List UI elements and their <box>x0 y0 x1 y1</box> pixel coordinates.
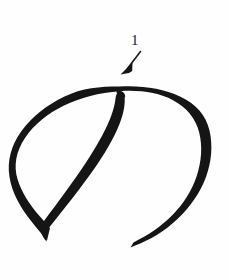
brush-stroke-figure <box>0 0 229 280</box>
annotation-arrowhead-1 <box>121 63 133 75</box>
outer-loop-stroke <box>9 86 212 247</box>
stroke-diagram-canvas: 1 <box>0 0 229 280</box>
inner-diagonal-stroke <box>41 92 125 241</box>
stroke-number-label-1: 1 <box>131 33 139 48</box>
